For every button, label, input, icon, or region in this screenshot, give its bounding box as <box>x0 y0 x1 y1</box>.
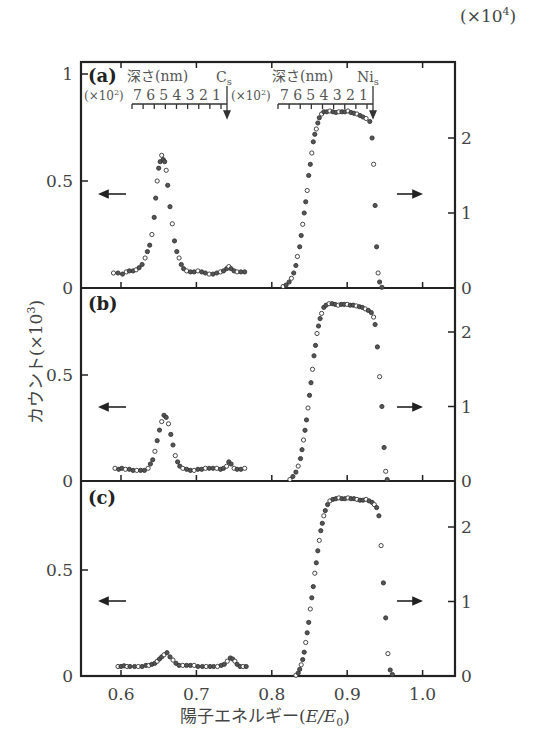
surface-arrow-icon <box>370 111 376 118</box>
panel-label-b: (b) <box>88 293 118 314</box>
right-arrowhead-icon <box>413 598 421 605</box>
right-tick-label: 0 <box>461 471 472 491</box>
cs-data-point <box>140 262 144 266</box>
ni-data-point <box>305 631 309 635</box>
right-tick-label: 2 <box>461 517 472 537</box>
ni-data-point <box>316 324 320 328</box>
ni-data-point <box>309 381 313 385</box>
ni-data-point <box>372 315 376 319</box>
data-points <box>111 109 394 678</box>
ni-data-point <box>380 285 384 289</box>
ni-data-point <box>298 457 302 461</box>
panel-label-a: (a) <box>88 65 117 86</box>
ni-data-point <box>388 668 392 672</box>
cs-data-point <box>168 205 172 209</box>
depth-scale-ni: 深さ(nm) Nis (×102) 7 6 5 4 3 2 1 <box>231 68 379 103</box>
cs-data-point <box>179 262 183 266</box>
right-arrowhead-icon <box>413 191 421 198</box>
ni-data-point <box>384 616 388 620</box>
cs-data-point <box>128 664 132 668</box>
cs-data-point <box>165 651 169 655</box>
cs-data-point <box>164 168 168 172</box>
ni-data-point <box>319 529 323 533</box>
left-tick-label: 0.5 <box>46 560 73 580</box>
cs-data-point <box>177 256 181 260</box>
depth-multiplier-ni: (×102) <box>231 88 271 103</box>
cs-label: Cs <box>216 69 232 87</box>
x-tick-label: 0.7 <box>183 684 210 704</box>
outer-frame <box>81 62 455 676</box>
cs-data-point <box>229 462 233 466</box>
cs-data-point <box>157 428 161 432</box>
ni-data-point <box>320 311 324 315</box>
axis-tick-labels: 00.5101200.501200.50120.60.70.80.91.0 <box>46 64 472 704</box>
x-tick-label: 0.9 <box>334 684 361 704</box>
cs-data-point <box>155 179 159 183</box>
ni-data-point <box>299 233 303 237</box>
ni-data-point <box>323 509 327 513</box>
cs-data-point <box>145 250 149 254</box>
left-tick-label: 1 <box>62 64 73 84</box>
ni-data-point <box>318 317 322 321</box>
ni-data-point <box>303 428 307 432</box>
ni-data-point <box>372 162 376 166</box>
cs-data-point <box>243 270 247 274</box>
cs-data-point <box>173 454 177 458</box>
ni-data-point <box>310 367 314 371</box>
ni-data-point <box>292 271 296 275</box>
ni-data-point <box>375 506 379 510</box>
right-tick-label: 1 <box>461 203 472 223</box>
ni-data-point <box>301 658 305 662</box>
ni-data-point <box>305 188 309 192</box>
ni-data-point <box>386 652 390 656</box>
ni-data-point <box>315 331 319 335</box>
cs-data-point <box>163 160 167 164</box>
ni-data-point <box>307 393 311 397</box>
right-tick-label: 2 <box>461 322 472 342</box>
ni-data-point <box>301 222 305 226</box>
right-tick-label: 2 <box>461 128 472 148</box>
depth-multiplier-cs: (×102) <box>84 88 124 103</box>
right-tick-label: 1 <box>461 397 472 417</box>
ni-data-point <box>304 640 308 644</box>
ni-data-point <box>304 418 308 422</box>
cs-data-point <box>154 196 158 200</box>
left-tick-label: 0.5 <box>46 365 73 385</box>
ni-data-point <box>376 271 380 275</box>
cs-data-point <box>152 215 156 219</box>
cs-data-point <box>196 664 200 668</box>
ni-data-point <box>294 470 298 474</box>
ni-data-point <box>302 211 306 215</box>
ni-data-point <box>373 203 377 207</box>
ni-data-point <box>296 464 300 468</box>
ni-data-point <box>378 280 382 284</box>
ni-data-point <box>373 322 377 326</box>
right-tick-label: 0 <box>461 278 472 298</box>
ni-data-point <box>294 263 298 267</box>
left-tick-label: 0 <box>62 666 73 686</box>
right-tick-label: 0 <box>461 666 472 686</box>
ni-data-point <box>295 254 299 258</box>
x-tick-label: 1.0 <box>409 684 436 704</box>
cs-data-point <box>171 443 175 447</box>
cs-data-point <box>160 153 164 157</box>
ni-data-point <box>370 136 374 140</box>
ni-data-point <box>311 585 315 589</box>
cs-data-point <box>176 460 180 464</box>
x-axis-title: 陽子エネルギー(E/E0) <box>180 706 350 729</box>
depth-digits-ni: 7 6 5 4 3 2 1 <box>280 87 368 103</box>
y-axis-title: カウント(×103) <box>25 300 46 424</box>
ni-data-point <box>314 127 318 131</box>
ni-data-point <box>310 151 314 155</box>
rbs-spectra-chart: 00.5101200.501200.50120.60.70.80.91.0 (a… <box>0 0 544 752</box>
left-tick-label: 0 <box>62 471 73 491</box>
right-axis-unit: (×104) <box>460 5 516 26</box>
ni-data-point <box>306 406 310 410</box>
ni-data-point <box>313 571 317 575</box>
left-arrowhead-icon <box>100 404 108 411</box>
ni-data-point <box>382 445 386 449</box>
ni-data-point <box>307 620 311 624</box>
depth-digits-cs: 7 6 5 4 3 2 1 <box>133 87 221 103</box>
ni-data-point <box>301 438 305 442</box>
ni-data-point <box>320 521 324 525</box>
